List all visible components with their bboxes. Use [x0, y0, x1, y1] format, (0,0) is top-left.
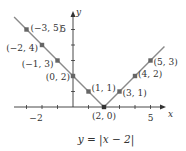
x-tick-label-neg2: −2 — [29, 113, 42, 123]
chart-caption: y = |x − 2| — [77, 133, 135, 147]
data-point-label: (0, 2) — [46, 72, 70, 82]
data-point — [148, 58, 152, 62]
data-point — [133, 74, 137, 78]
data-point — [55, 58, 59, 62]
data-point-label: (−3, 5) — [31, 23, 63, 33]
x-axis-arrow-icon — [160, 105, 166, 110]
data-point-label: (2, 0) — [92, 111, 116, 121]
data-point — [24, 27, 28, 31]
chart: x y −2 5 5 (−3, 5)(−2, 4)(−1, 3)(0, 2)(1… — [0, 0, 186, 151]
y-axis-label: y — [75, 7, 82, 17]
data-point — [102, 105, 106, 109]
data-point — [40, 43, 44, 47]
x-tick-label-5: 5 — [148, 113, 154, 123]
y-axis-arrow-icon — [71, 11, 76, 17]
data-point-label: (−2, 4) — [6, 43, 38, 53]
data-point — [86, 89, 90, 93]
data-point-label: (1, 1) — [92, 83, 116, 93]
data-points: (−3, 5)(−2, 4)(−1, 3)(0, 2)(1, 1)(2, 0)(… — [6, 23, 177, 122]
data-point-label: (4, 2) — [138, 69, 162, 79]
data-point-label: (3, 1) — [123, 88, 147, 98]
data-point-label: (−1, 3) — [22, 59, 54, 69]
data-point-label: (5, 3) — [154, 57, 178, 67]
x-axis-label: x — [168, 109, 173, 119]
data-point — [71, 74, 75, 78]
data-point — [117, 89, 121, 93]
